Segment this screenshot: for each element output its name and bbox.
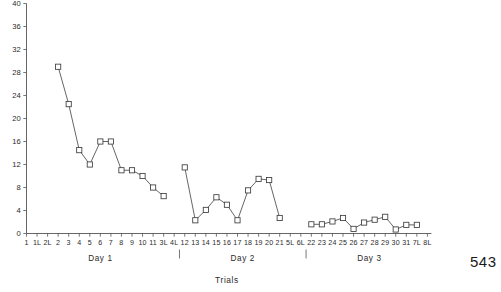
x-axis-tick-label: 19 <box>254 239 262 247</box>
data-point-marker <box>214 195 219 200</box>
x-axis-tick-label: 16 <box>223 239 231 247</box>
x-axis-tick-label: 22 <box>307 239 315 247</box>
x-axis-tick-label: 29 <box>381 239 389 247</box>
data-point-marker <box>182 165 187 170</box>
data-point-marker <box>98 139 103 144</box>
x-axis-tick-label: 4L <box>170 239 178 247</box>
x-axis-tick-label: 2L <box>43 239 51 247</box>
y-axis-tick-label: 16 <box>12 137 21 146</box>
data-point-marker <box>87 162 92 167</box>
x-axis-tick-label: 7L <box>413 239 421 247</box>
y-axis-tick-label: 4 <box>17 206 21 215</box>
x-axis-tick-label: 15 <box>212 239 220 247</box>
x-axis-title: Trials <box>215 275 239 285</box>
data-point-marker <box>161 194 166 199</box>
data-point-marker <box>340 215 345 220</box>
y-axis-tick-label: 32 <box>12 45 21 54</box>
day-group-label: Day 2 <box>231 254 255 263</box>
x-axis-tick-label: 18 <box>244 239 252 247</box>
data-point-marker <box>151 185 156 190</box>
data-point-marker <box>414 222 419 227</box>
x-axis-tick-label: 25 <box>339 239 347 247</box>
x-axis-tick-label: 27 <box>360 239 368 247</box>
data-point-marker <box>277 215 282 220</box>
data-point-marker <box>235 218 240 223</box>
x-axis-tick-label: 6 <box>98 239 102 247</box>
data-point-marker <box>119 168 124 173</box>
x-axis-tick-label: 30 <box>392 239 400 247</box>
data-series-group <box>56 64 420 232</box>
x-axis-tick-label: 21 <box>276 239 284 247</box>
day-group-labels: Day 1Day 2Day 3 <box>88 250 381 263</box>
y-axis-tick-label: 36 <box>12 22 21 31</box>
series-line-day-2 <box>185 167 280 220</box>
series-line-day-1 <box>58 67 163 196</box>
x-axis-tick-label: 5L <box>286 239 294 247</box>
day-group-label: Day 3 <box>357 254 381 263</box>
data-point-marker <box>372 217 377 222</box>
data-point-marker <box>362 220 367 225</box>
data-point-marker <box>267 177 272 182</box>
data-point-marker <box>203 207 208 212</box>
y-axis-tick-label: 20 <box>12 114 21 123</box>
y-axis-tick-label: 12 <box>12 160 21 169</box>
y-axis-tick-label: 28 <box>12 68 21 77</box>
page-number: 543 <box>470 253 497 270</box>
data-point-marker <box>383 214 388 219</box>
y-axis-tick-label: 40 <box>12 0 21 8</box>
data-point-marker <box>193 218 198 223</box>
x-axis-tick-label: 8L <box>423 239 431 247</box>
x-axis-tick-label: 8 <box>119 239 123 247</box>
x-axis-tick-label: 17 <box>233 239 241 247</box>
x-axis-tick-label: 5 <box>88 239 92 247</box>
data-point-marker <box>66 102 71 107</box>
y-axis-tick-label: 0 <box>17 229 21 238</box>
data-point-marker <box>224 202 229 207</box>
x-axis-tick-label: 1L <box>33 239 41 247</box>
x-axis-tick-label: 2 <box>56 239 60 247</box>
data-point-marker <box>256 176 261 181</box>
x-axis-tick-label: 9 <box>130 239 134 247</box>
day-group-label: Day 1 <box>88 254 112 263</box>
data-point-marker <box>330 219 335 224</box>
x-axis-tick-label: 26 <box>349 239 357 247</box>
x-axis-tick-label: 31 <box>402 239 410 247</box>
data-point-marker <box>393 227 398 232</box>
x-axis-tick-label: 12 <box>181 239 189 247</box>
data-point-marker <box>245 188 250 193</box>
x-axis-tick-label: 11 <box>149 239 157 247</box>
x-axis-tick-label: 23 <box>318 239 326 247</box>
x-axis-tick-label: 3 <box>67 239 71 247</box>
x-axis-tick-label: 14 <box>202 239 210 247</box>
data-point-marker <box>77 148 82 153</box>
x-axis-tick-label: 10 <box>138 239 146 247</box>
data-point-marker <box>404 222 409 227</box>
y-axis: 0481216202428323640 <box>12 0 26 238</box>
x-axis-tick-label: 28 <box>371 239 379 247</box>
data-point-marker <box>56 64 61 69</box>
data-point-marker <box>309 222 314 227</box>
data-point-marker <box>351 226 356 231</box>
data-point-marker <box>140 173 145 178</box>
x-axis-tick-label: 7 <box>109 239 113 247</box>
data-point-marker <box>108 139 113 144</box>
x-axis-tick-label: 13 <box>191 239 199 247</box>
chart-figure: 0481216202428323640 11L2L2345678910113L4… <box>0 0 501 292</box>
x-axis-tick-label: 24 <box>328 239 336 247</box>
x-axis-tick-label: 6L <box>297 239 305 247</box>
x-axis-tick-label: 1 <box>24 239 28 247</box>
y-axis-tick-label: 8 <box>17 183 21 192</box>
y-axis-tick-label: 24 <box>12 91 21 100</box>
x-axis: 11L2L2345678910113L4L1213141516171819202… <box>24 234 431 248</box>
trials-line-chart: 0481216202428323640 11L2L2345678910113L4… <box>0 0 501 292</box>
x-axis-tick-label: 3L <box>160 239 168 247</box>
data-point-marker <box>319 222 324 227</box>
x-axis-tick-label: 4 <box>77 239 81 247</box>
data-point-marker <box>129 168 134 173</box>
x-axis-tick-label: 20 <box>265 239 273 247</box>
